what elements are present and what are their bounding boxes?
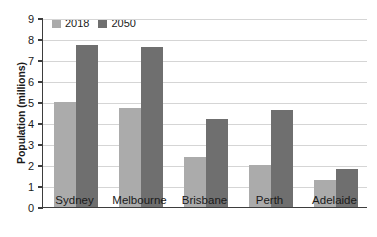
y-axis-tick-label: 0 <box>28 202 34 214</box>
bar-group <box>108 18 173 207</box>
plot-area: 0123456789 <box>42 19 367 208</box>
bar-sydney-2018 <box>54 102 76 207</box>
bar-perth-2050 <box>271 110 293 207</box>
x-axis-label-perth: Perth <box>256 194 284 206</box>
bar-melbourne-2018 <box>119 108 141 207</box>
y-axis-tick-label: 9 <box>28 13 34 25</box>
bar-sydney-2050 <box>76 45 98 207</box>
x-axis-label-adelaide: Adelaide <box>312 194 357 206</box>
y-axis-tick-label: 7 <box>28 55 34 67</box>
bar-group <box>238 18 303 207</box>
y-axis-tick-label: 6 <box>28 76 34 88</box>
y-axis-tick-label: 5 <box>28 97 34 109</box>
bar-melbourne-2050 <box>141 47 163 207</box>
y-axis-tick-label: 1 <box>28 181 34 193</box>
y-axis-tick-label: 4 <box>28 118 34 130</box>
y-axis-title: Population (millions) <box>15 38 27 188</box>
y-axis-tick <box>38 207 43 208</box>
y-axis-tick-label: 3 <box>28 139 34 151</box>
x-axis-label-brisbane: Brisbane <box>182 194 227 206</box>
x-axis-label-melbourne: Melbourne <box>112 194 166 206</box>
bars-layer <box>43 19 367 207</box>
y-axis-tick-label: 2 <box>28 160 34 172</box>
y-axis-tick-label: 8 <box>28 34 34 46</box>
bar-group <box>43 18 108 207</box>
bar-group <box>173 18 238 207</box>
x-axis-label-sydney: Sydney <box>55 194 93 206</box>
bar-group <box>303 18 368 207</box>
bar-chart: Population (millions) 20182050 012345678… <box>0 0 377 237</box>
